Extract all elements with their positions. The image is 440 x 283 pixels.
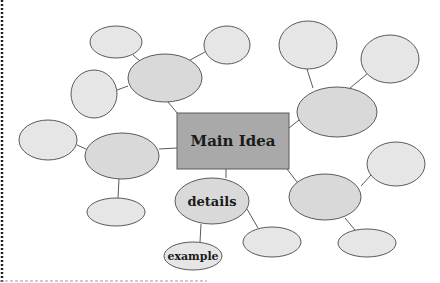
mind-map-diagram: detailsexample Main Idea	[0, 0, 440, 283]
connector-line	[289, 120, 299, 128]
connector-line	[361, 175, 371, 186]
empty-bubble	[297, 87, 377, 137]
bubble-shape	[85, 133, 159, 179]
empty-bubble	[128, 54, 202, 102]
bubble-details: details	[175, 178, 249, 224]
bubble-shape	[71, 70, 117, 118]
empty-bubble	[87, 198, 145, 226]
bubble-shape	[87, 198, 145, 226]
bubble-label: details	[188, 194, 237, 209]
connector-line	[350, 74, 367, 88]
bubble-label: example	[167, 250, 218, 263]
connector-line	[77, 145, 86, 149]
connector-line	[190, 52, 205, 60]
connector-line	[345, 218, 355, 230]
connector-line	[247, 209, 258, 228]
empty-bubble	[19, 120, 77, 160]
bubble-shape	[279, 21, 337, 69]
empty-bubble	[367, 142, 425, 186]
bubble-example: example	[164, 242, 222, 270]
bubble-shape	[297, 87, 377, 137]
connector-line	[168, 102, 178, 114]
bubble-shape	[204, 26, 250, 64]
connector-line	[133, 55, 140, 61]
bubble-shape	[338, 229, 396, 257]
bubble-shape	[361, 35, 419, 83]
empty-bubble	[279, 21, 337, 69]
empty-bubble	[90, 26, 142, 58]
bubble-shape	[367, 142, 425, 186]
empty-bubble	[361, 35, 419, 83]
connector-line	[200, 224, 201, 242]
connector-line	[117, 86, 128, 90]
empty-bubble	[243, 227, 301, 257]
connector-line	[287, 169, 297, 182]
bubble-shape	[289, 174, 361, 220]
empty-bubble	[71, 70, 117, 118]
main-idea-label: Main Idea	[191, 132, 276, 150]
connector-line	[118, 179, 119, 198]
empty-bubble	[338, 229, 396, 257]
bubble-shape	[128, 54, 202, 102]
connector-line	[307, 69, 313, 88]
bubble-shape	[90, 26, 142, 58]
bubble-shape	[243, 227, 301, 257]
main-idea-box: Main Idea	[177, 113, 289, 169]
bubble-shape	[19, 120, 77, 160]
connector-line	[159, 148, 177, 149]
empty-bubble	[289, 174, 361, 220]
empty-bubble	[85, 133, 159, 179]
empty-bubble	[204, 26, 250, 64]
